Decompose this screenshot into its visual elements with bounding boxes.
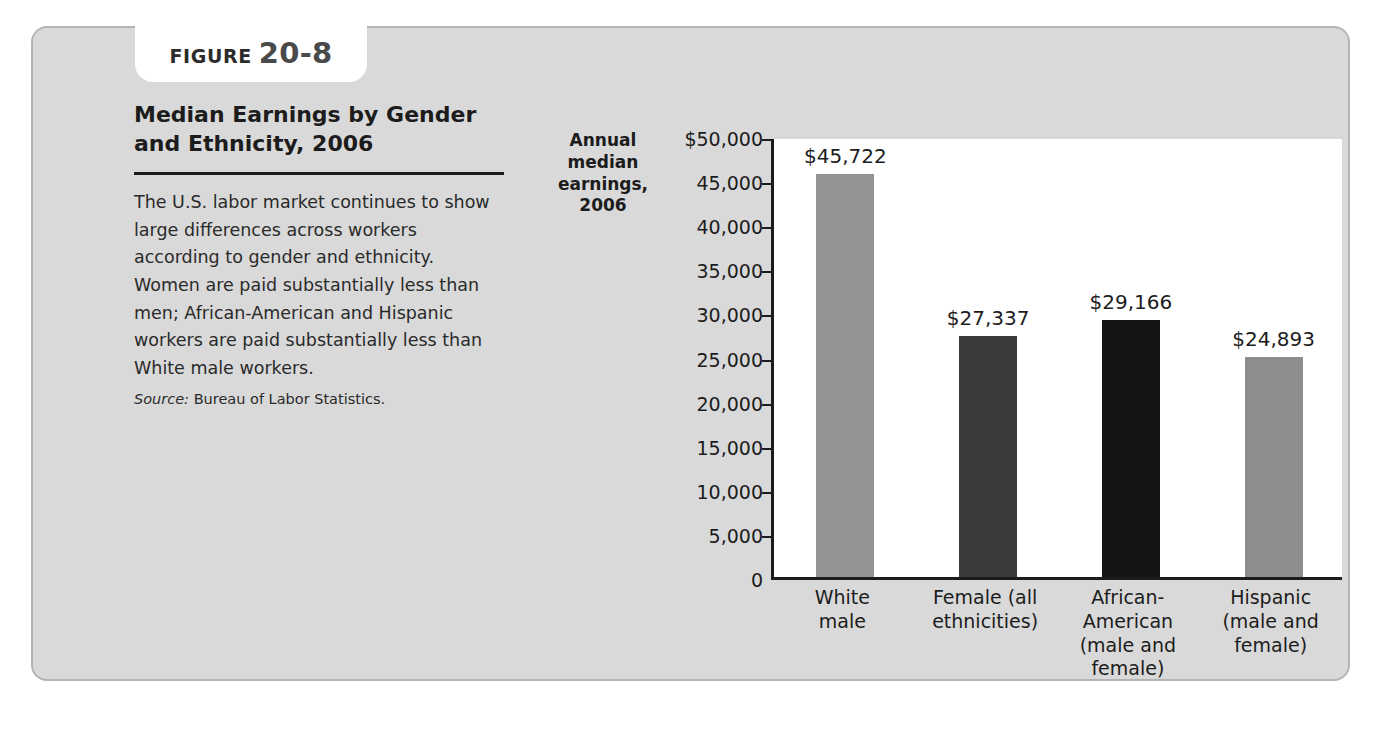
source-label: Source: [134, 391, 189, 407]
bar [959, 336, 1017, 577]
figure-number-tab: FIGURE20-8 [135, 26, 367, 82]
y-tick-label: 25,000 [697, 349, 763, 371]
x-category-label-line: (male and [1199, 610, 1342, 634]
x-category-label-line: Hispanic [1199, 586, 1342, 610]
y-tick-mark [762, 315, 774, 317]
x-category-label-line: African- [1057, 586, 1200, 610]
caption-column: Median Earnings by Gender and Ethnicity,… [134, 101, 504, 407]
bar-value-label: $29,166 [1090, 290, 1173, 314]
x-category-label-line: female) [1057, 657, 1200, 681]
x-category-label-line: ethnicities) [914, 610, 1057, 634]
y-tick-label: 35,000 [697, 260, 763, 282]
y-tick-label: 5,000 [709, 525, 763, 547]
x-category-label-line: American [1057, 610, 1200, 634]
x-category-label-line: (male and [1057, 634, 1200, 658]
bar-group: $45,722 [816, 139, 874, 577]
y-tick-mark [762, 360, 774, 362]
x-category-label-line: Female (all [914, 586, 1057, 610]
y-tick-label: 30,000 [697, 304, 763, 326]
x-category-label: Hispanic(male andfemale) [1199, 586, 1342, 657]
bar [816, 174, 874, 577]
y-axis-tick-labels: $50,00045,00040,00035,00030,00025,00020,… [643, 108, 763, 688]
figure-number-tab-inner: FIGURE20-8 [135, 36, 367, 70]
y-tick-mark [762, 183, 774, 185]
figure-title: Median Earnings by Gender and Ethnicity,… [134, 101, 504, 158]
bars-layer: $45,722$27,337$29,166$24,893 [774, 139, 1342, 577]
bar-group: $29,166 [1102, 139, 1160, 577]
y-tick-label: 15,000 [697, 437, 763, 459]
y-tick-mark [762, 271, 774, 273]
x-category-label-line: female) [1199, 634, 1342, 658]
bar-group: $24,893 [1245, 139, 1303, 577]
source-text: Bureau of Labor Statistics. [194, 391, 385, 407]
x-category-label: Whitemale [771, 586, 914, 634]
y-tick-label: 20,000 [697, 393, 763, 415]
y-tick-label: 40,000 [697, 216, 763, 238]
y-tick-mark [762, 404, 774, 406]
y-tick-mark [762, 448, 774, 450]
x-category-label-line: male [771, 610, 914, 634]
figure-description: The U.S. labor market continues to show … [134, 189, 504, 382]
x-category-label: African-American(male andfemale) [1057, 586, 1200, 681]
bar [1102, 320, 1160, 577]
figure-card: FIGURE20-8 Median Earnings by Gender and… [31, 26, 1350, 681]
y-tick-label: 10,000 [697, 481, 763, 503]
x-category-label-line: White [771, 586, 914, 610]
figure-source: Source: Bureau of Labor Statistics. [134, 391, 504, 407]
title-divider [134, 172, 504, 175]
bar-value-label: $45,722 [804, 144, 887, 168]
x-category-label: Female (allethnicities) [914, 586, 1057, 634]
plot-area: $45,722$27,337$29,166$24,893 [771, 139, 1342, 580]
bar-value-label: $24,893 [1232, 327, 1315, 351]
bar-value-label: $27,337 [947, 306, 1030, 330]
chart: Annual median earnings, 2006 $50,00045,0… [543, 108, 1343, 688]
y-tick-mark [762, 227, 774, 229]
y-tick-label: 0 [751, 569, 763, 591]
bar [1245, 357, 1303, 577]
x-axis-category-labels: WhitemaleFemale (allethnicities)African-… [771, 586, 1342, 686]
y-tick-mark [762, 139, 774, 141]
figure-label-number: 20-8 [259, 36, 333, 70]
figure-label-word: FIGURE [169, 45, 251, 67]
y-tick-mark [762, 492, 774, 494]
y-tick-label: 45,000 [697, 172, 763, 194]
bar-group: $27,337 [959, 139, 1017, 577]
y-tick-label: $50,000 [684, 128, 763, 150]
page-root: { "figure": { "label_word": "FIGURE", "l… [0, 0, 1387, 738]
y-tick-mark [762, 536, 774, 538]
